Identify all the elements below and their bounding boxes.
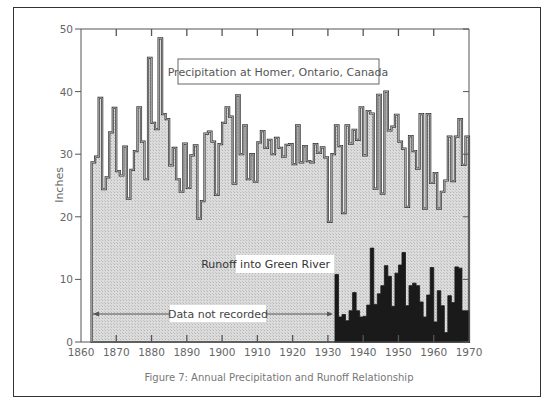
y-axis-label: Inches <box>53 167 66 203</box>
y-tick-label: 10 <box>60 273 73 285</box>
y-tick-label: 20 <box>60 211 73 223</box>
precip-title: Precipitation at Homer, Ontario, Canada <box>168 66 389 79</box>
y-tick-label: 50 <box>60 23 73 35</box>
x-tick-label: 1920 <box>279 346 306 358</box>
x-tick-label: 1960 <box>420 346 447 358</box>
x-tick-label: 1900 <box>209 346 236 358</box>
precipitation-runoff-chart: 0102030405018601870188018901900191019201… <box>0 0 558 409</box>
x-tick-label: 1940 <box>350 346 377 358</box>
x-tick-label: 1930 <box>315 346 342 358</box>
figure-caption: Figure 7: Annual Precipitation and Runof… <box>0 372 558 383</box>
y-tick-label: 40 <box>60 86 73 98</box>
no-data-label: Data not recorded <box>168 308 268 321</box>
y-tick-label: 30 <box>60 148 73 160</box>
x-tick-label: 1880 <box>138 346 165 358</box>
x-tick-label: 1950 <box>385 346 412 358</box>
runoff-label: Runoff into Green River <box>201 258 330 271</box>
x-tick-label: 1860 <box>68 346 95 358</box>
x-tick-label: 1870 <box>103 346 130 358</box>
x-tick-label: 1910 <box>244 346 271 358</box>
x-tick-label: 1970 <box>456 346 483 358</box>
x-tick-label: 1890 <box>173 346 200 358</box>
